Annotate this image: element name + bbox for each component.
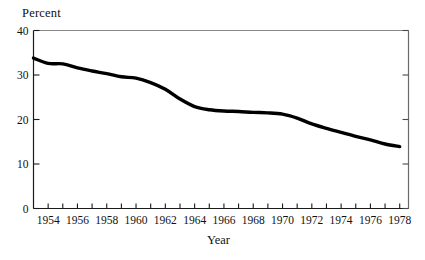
svg-text:1956: 1956 <box>66 214 89 226</box>
plot-frame <box>34 31 409 209</box>
svg-text:1974: 1974 <box>330 214 353 226</box>
y-axis-ticks: 010203040 <box>17 25 409 215</box>
chart-figure: Percent 010203040 1954195619581960196219… <box>0 0 425 260</box>
svg-text:1970: 1970 <box>271 214 294 226</box>
svg-text:20: 20 <box>17 114 29 126</box>
x-axis-ticks: 1954195619581960196219641966196819701972… <box>37 204 412 226</box>
svg-text:1972: 1972 <box>300 214 323 226</box>
svg-text:1960: 1960 <box>125 214 148 226</box>
x-axis-label: Year <box>0 233 425 248</box>
svg-text:1964: 1964 <box>183 214 206 226</box>
svg-text:1978: 1978 <box>388 214 411 226</box>
svg-text:1954: 1954 <box>37 214 60 226</box>
svg-text:30: 30 <box>17 69 29 81</box>
svg-text:0: 0 <box>23 203 29 215</box>
svg-text:1968: 1968 <box>242 214 265 226</box>
svg-text:1976: 1976 <box>359 214 382 226</box>
svg-text:1966: 1966 <box>212 214 235 226</box>
svg-text:10: 10 <box>17 158 29 170</box>
line-chart-plot: 010203040 195419561958196019621964196619… <box>0 0 425 260</box>
x-axis-label-text: Year <box>207 233 230 247</box>
svg-text:1962: 1962 <box>154 214 177 226</box>
data-series-line <box>34 58 400 147</box>
svg-text:1958: 1958 <box>95 214 118 226</box>
svg-text:40: 40 <box>17 25 29 37</box>
